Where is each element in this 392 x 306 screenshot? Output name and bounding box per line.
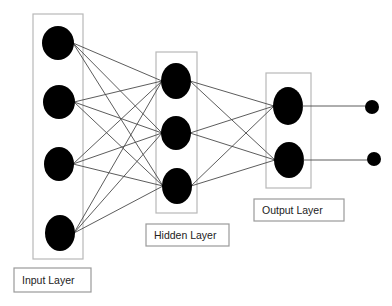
input-neuron bbox=[44, 147, 74, 181]
input-neuron bbox=[43, 85, 75, 119]
output-connections bbox=[302, 100, 381, 166]
hidden-layer-label-text: Hidden Layer bbox=[154, 229, 217, 241]
output-neuron bbox=[273, 87, 303, 125]
connection-edge bbox=[191, 160, 275, 186]
input-neuron bbox=[45, 215, 75, 251]
hidden-neuron bbox=[162, 168, 192, 204]
input-neuron bbox=[42, 26, 74, 60]
output-terminal-dot bbox=[367, 152, 381, 166]
connection-edge bbox=[73, 43, 163, 186]
connection-edge bbox=[74, 81, 162, 102]
input-layer-label-text: Input Layer bbox=[22, 274, 75, 286]
connection-edge bbox=[73, 81, 162, 164]
output-layer-label: Output Layer bbox=[254, 199, 344, 221]
connection-edge bbox=[190, 81, 275, 160]
connection-edge bbox=[74, 102, 162, 133]
output-layer-label-text: Output Layer bbox=[262, 204, 323, 216]
input-layer-label: Input Layer bbox=[14, 268, 91, 292]
output-terminal-dot bbox=[365, 100, 379, 114]
hidden-layer-label: Hidden Layer bbox=[146, 224, 229, 246]
connection-edge bbox=[73, 43, 162, 81]
output-neuron bbox=[274, 142, 304, 178]
connection-edge bbox=[191, 106, 274, 186]
connection-edge bbox=[73, 43, 162, 133]
connection-edge bbox=[190, 81, 274, 106]
hidden-neuron bbox=[161, 63, 191, 99]
hidden-neuron bbox=[161, 116, 191, 150]
connection-edge bbox=[190, 106, 274, 133]
neural-network-diagram: Input Layer Hidden Layer Output Layer bbox=[0, 0, 392, 306]
